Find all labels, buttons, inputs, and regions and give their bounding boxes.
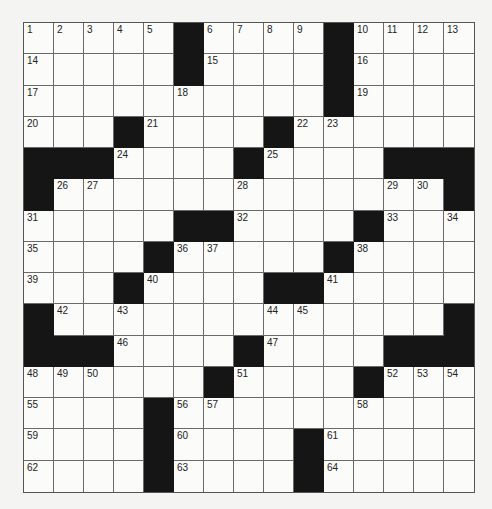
grid-cell[interactable] — [144, 211, 174, 242]
grid-cell[interactable] — [234, 54, 264, 85]
grid-cell[interactable]: 26 — [54, 179, 84, 210]
grid-cell[interactable]: 22 — [294, 117, 324, 148]
grid-cell[interactable] — [294, 54, 324, 85]
grid-cell[interactable] — [354, 461, 384, 492]
grid-cell[interactable] — [84, 117, 114, 148]
grid-cell[interactable] — [444, 54, 474, 85]
grid-cell[interactable] — [294, 336, 324, 367]
grid-cell[interactable] — [144, 148, 174, 179]
grid-cell[interactable] — [114, 179, 144, 210]
grid-cell[interactable] — [174, 179, 204, 210]
grid-cell[interactable] — [294, 211, 324, 242]
grid-cell[interactable]: 62 — [24, 461, 54, 492]
grid-cell[interactable]: 14 — [24, 54, 54, 85]
grid-cell[interactable] — [444, 398, 474, 429]
grid-cell[interactable]: 39 — [24, 273, 54, 304]
grid-cell[interactable] — [84, 273, 114, 304]
grid-cell[interactable] — [444, 429, 474, 460]
grid-cell[interactable]: 43 — [114, 304, 144, 335]
grid-cell[interactable] — [444, 86, 474, 117]
grid-cell[interactable] — [54, 242, 84, 273]
grid-cell[interactable]: 51 — [234, 367, 264, 398]
grid-cell[interactable]: 38 — [354, 242, 384, 273]
grid-cell[interactable] — [84, 86, 114, 117]
grid-cell[interactable] — [54, 398, 84, 429]
grid-cell[interactable]: 31 — [24, 211, 54, 242]
grid-cell[interactable] — [234, 242, 264, 273]
grid-cell[interactable] — [114, 211, 144, 242]
grid-cell[interactable] — [264, 179, 294, 210]
grid-cell[interactable] — [204, 179, 234, 210]
grid-cell[interactable] — [324, 148, 354, 179]
grid-cell[interactable]: 35 — [24, 242, 54, 273]
grid-cell[interactable]: 59 — [24, 429, 54, 460]
grid-cell[interactable]: 45 — [294, 304, 324, 335]
grid-cell[interactable]: 55 — [24, 398, 54, 429]
grid-cell[interactable] — [144, 336, 174, 367]
grid-cell[interactable] — [324, 211, 354, 242]
grid-cell[interactable]: 47 — [264, 336, 294, 367]
grid-cell[interactable]: 15 — [204, 54, 234, 85]
grid-cell[interactable]: 56 — [174, 398, 204, 429]
grid-cell[interactable] — [264, 242, 294, 273]
grid-cell[interactable] — [174, 148, 204, 179]
grid-cell[interactable] — [84, 398, 114, 429]
grid-cell[interactable]: 16 — [354, 54, 384, 85]
grid-cell[interactable] — [114, 429, 144, 460]
grid-cell[interactable] — [354, 117, 384, 148]
grid-cell[interactable] — [204, 336, 234, 367]
grid-cell[interactable]: 52 — [384, 367, 414, 398]
grid-cell[interactable]: 64 — [324, 461, 354, 492]
grid-cell[interactable] — [294, 398, 324, 429]
grid-cell[interactable] — [414, 211, 444, 242]
grid-cell[interactable] — [234, 273, 264, 304]
grid-cell[interactable]: 21 — [144, 117, 174, 148]
grid-cell[interactable]: 32 — [234, 211, 264, 242]
grid-cell[interactable] — [234, 429, 264, 460]
grid-cell[interactable]: 18 — [174, 86, 204, 117]
grid-cell[interactable] — [174, 273, 204, 304]
grid-cell[interactable]: 30 — [414, 179, 444, 210]
grid-cell[interactable]: 60 — [174, 429, 204, 460]
grid-cell[interactable]: 25 — [264, 148, 294, 179]
grid-cell[interactable] — [294, 242, 324, 273]
grid-cell[interactable] — [384, 86, 414, 117]
grid-cell[interactable] — [144, 304, 174, 335]
grid-cell[interactable] — [264, 86, 294, 117]
grid-cell[interactable] — [234, 461, 264, 492]
grid-cell[interactable] — [324, 304, 354, 335]
grid-cell[interactable] — [174, 367, 204, 398]
grid-cell[interactable] — [384, 429, 414, 460]
grid-cell[interactable] — [54, 211, 84, 242]
grid-cell[interactable]: 12 — [414, 23, 444, 54]
grid-cell[interactable]: 7 — [234, 23, 264, 54]
grid-cell[interactable] — [414, 273, 444, 304]
grid-cell[interactable]: 17 — [24, 86, 54, 117]
grid-cell[interactable]: 27 — [84, 179, 114, 210]
grid-cell[interactable]: 8 — [264, 23, 294, 54]
grid-cell[interactable] — [354, 429, 384, 460]
grid-cell[interactable] — [204, 429, 234, 460]
grid-cell[interactable] — [354, 179, 384, 210]
grid-cell[interactable] — [234, 117, 264, 148]
grid-cell[interactable]: 40 — [144, 273, 174, 304]
grid-cell[interactable]: 37 — [204, 242, 234, 273]
grid-cell[interactable] — [294, 367, 324, 398]
grid-cell[interactable] — [234, 398, 264, 429]
grid-cell[interactable] — [414, 242, 444, 273]
grid-cell[interactable]: 50 — [84, 367, 114, 398]
grid-cell[interactable]: 6 — [204, 23, 234, 54]
grid-cell[interactable]: 28 — [234, 179, 264, 210]
grid-cell[interactable] — [144, 179, 174, 210]
grid-cell[interactable] — [354, 148, 384, 179]
grid-cell[interactable] — [414, 117, 444, 148]
grid-cell[interactable] — [264, 211, 294, 242]
grid-cell[interactable] — [354, 304, 384, 335]
grid-cell[interactable] — [264, 461, 294, 492]
grid-cell[interactable] — [54, 273, 84, 304]
grid-cell[interactable] — [144, 367, 174, 398]
grid-cell[interactable]: 63 — [174, 461, 204, 492]
grid-cell[interactable]: 11 — [384, 23, 414, 54]
grid-cell[interactable] — [324, 398, 354, 429]
grid-cell[interactable]: 49 — [54, 367, 84, 398]
